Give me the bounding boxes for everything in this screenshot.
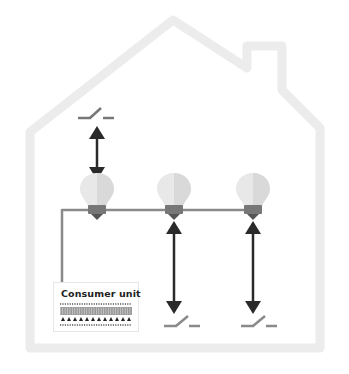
double-arrow-icon [245, 221, 261, 314]
consumer-unit: Consumer unit [53, 282, 139, 332]
light-bulb-icon [157, 173, 191, 220]
light-bulb-icon [80, 173, 114, 220]
double-arrow-icon [89, 126, 105, 180]
wiring [62, 209, 255, 283]
light-bulb-icon [236, 173, 270, 220]
double-arrow-icon [166, 221, 182, 314]
light-switch-icon [241, 316, 277, 326]
breaker-panel-icon [53, 282, 139, 332]
light-switch-icon [78, 108, 114, 118]
light-switch-icon [164, 316, 200, 326]
